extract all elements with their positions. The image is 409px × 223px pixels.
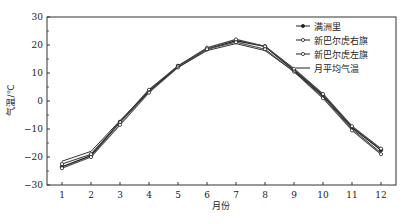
data-point-marker bbox=[379, 153, 382, 156]
line-chart: −30−20−100102030123456789101112满洲里新巴尔虎右旗… bbox=[0, 0, 409, 223]
legend-label: 新巴尔虎右旗 bbox=[314, 35, 368, 46]
x-tick-label: 12 bbox=[375, 190, 386, 200]
x-tick-label: 9 bbox=[291, 190, 297, 200]
legend-label: 满洲里 bbox=[314, 22, 341, 32]
legend-marker bbox=[301, 24, 304, 27]
x-tick-label: 8 bbox=[262, 190, 268, 200]
y-tick-label: −10 bbox=[24, 124, 43, 134]
x-tick-label: 6 bbox=[204, 190, 210, 200]
data-point-marker bbox=[321, 92, 324, 95]
x-tick-label: 11 bbox=[346, 190, 357, 200]
legend-label: 月平均气温 bbox=[314, 63, 359, 74]
y-tick-label: −30 bbox=[24, 180, 43, 190]
legend-marker bbox=[301, 38, 304, 41]
data-point-marker bbox=[60, 162, 63, 165]
figure-caption-cropped bbox=[0, 215, 409, 223]
x-tick-label: 1 bbox=[59, 190, 65, 200]
x-axis-label: 月份 bbox=[212, 200, 230, 211]
x-tick-label: 4 bbox=[146, 190, 152, 200]
y-tick-label: 10 bbox=[32, 68, 44, 78]
y-tick-label: 20 bbox=[32, 40, 44, 50]
legend-label: 新巴尔虎左旗 bbox=[314, 49, 368, 60]
y-axis-label: 气温/℃ bbox=[5, 84, 16, 115]
series-line bbox=[62, 44, 381, 162]
x-tick-label: 7 bbox=[233, 190, 239, 200]
y-tick-label: −20 bbox=[24, 152, 43, 162]
series-line bbox=[62, 41, 381, 167]
data-point-marker bbox=[60, 167, 63, 170]
legend-marker bbox=[301, 52, 304, 55]
x-tick-label: 2 bbox=[88, 190, 94, 200]
x-tick-label: 3 bbox=[117, 190, 123, 200]
x-tick-label: 5 bbox=[175, 190, 181, 200]
y-tick-label: 0 bbox=[37, 96, 43, 106]
data-point-marker bbox=[118, 123, 121, 126]
y-tick-label: 30 bbox=[32, 12, 44, 22]
data-point-marker bbox=[379, 147, 382, 150]
data-point-marker bbox=[89, 155, 92, 158]
x-tick-label: 10 bbox=[317, 190, 329, 200]
